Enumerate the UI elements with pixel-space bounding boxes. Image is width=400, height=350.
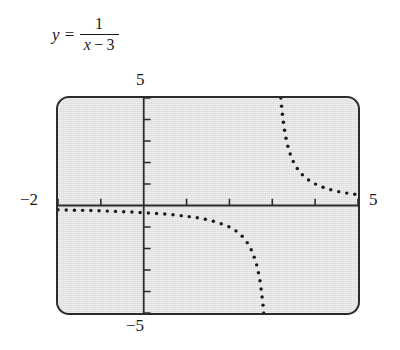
curve-point bbox=[281, 113, 284, 116]
axes-group bbox=[58, 98, 358, 313]
curve-point bbox=[258, 279, 261, 282]
curve-point bbox=[155, 212, 158, 215]
curve-point bbox=[321, 186, 324, 189]
curve-point bbox=[259, 287, 262, 290]
curve-point bbox=[261, 303, 264, 306]
denominator-operator: − bbox=[94, 36, 103, 53]
curve-point bbox=[286, 144, 289, 147]
curve-point bbox=[284, 137, 287, 140]
curve-point bbox=[81, 209, 84, 212]
graph-figure: y = 1 x−3 5 −2 5 −5 bbox=[0, 0, 400, 350]
curve-point bbox=[138, 211, 141, 214]
y-axis-min-label: −5 bbox=[126, 316, 144, 336]
x-axis-max-label: 5 bbox=[369, 190, 378, 210]
plot-canvas bbox=[58, 98, 358, 313]
curve-point bbox=[292, 160, 295, 163]
denominator-variable: x bbox=[84, 36, 91, 53]
function-equation: y = 1 x−3 bbox=[52, 16, 119, 53]
curve-point bbox=[301, 173, 304, 176]
curve-point bbox=[64, 208, 67, 211]
curve-point bbox=[345, 191, 348, 194]
curve-point bbox=[288, 152, 291, 155]
curve-point bbox=[196, 216, 199, 219]
curve-point bbox=[314, 182, 317, 185]
curve-point bbox=[122, 210, 125, 213]
curve-point bbox=[240, 234, 243, 237]
curve-point bbox=[296, 167, 299, 170]
y-axis-max-label: 5 bbox=[136, 70, 145, 90]
curve-point bbox=[279, 98, 282, 100]
curve-point bbox=[58, 208, 60, 211]
curve-point bbox=[227, 225, 230, 228]
curve-point bbox=[163, 212, 166, 215]
curve-point bbox=[353, 193, 356, 196]
curve-point bbox=[147, 211, 150, 214]
equation-fraction: 1 x−3 bbox=[80, 16, 119, 53]
curve-point bbox=[97, 209, 100, 212]
curve-point bbox=[114, 210, 117, 213]
curve-point bbox=[260, 295, 263, 298]
curve-point bbox=[329, 188, 332, 191]
curve-point bbox=[89, 209, 92, 212]
curve-point bbox=[188, 215, 191, 218]
curve-point bbox=[106, 209, 109, 212]
curve-point bbox=[337, 190, 340, 193]
curve-point bbox=[234, 229, 237, 232]
curve-point bbox=[280, 104, 283, 107]
equation-equals-sign: = bbox=[65, 25, 75, 45]
curve-point bbox=[204, 218, 207, 221]
curve-point bbox=[255, 263, 258, 266]
curve-point bbox=[179, 214, 182, 217]
equation-lhs: y bbox=[52, 25, 60, 45]
curve-point bbox=[130, 210, 133, 213]
curve-point bbox=[73, 208, 76, 211]
curve-point bbox=[212, 220, 215, 223]
curve-point bbox=[282, 121, 285, 124]
curve-point bbox=[262, 312, 265, 313]
graphing-window bbox=[56, 96, 360, 315]
curve-point bbox=[252, 255, 255, 258]
curve-point bbox=[171, 213, 174, 216]
curve-point bbox=[307, 178, 310, 181]
curve-point bbox=[257, 271, 260, 274]
fraction-numerator: 1 bbox=[89, 16, 109, 34]
curve-point bbox=[249, 248, 252, 251]
curve-point bbox=[219, 222, 222, 225]
denominator-constant: 3 bbox=[106, 36, 114, 53]
curve-point bbox=[283, 129, 286, 132]
fraction-denominator: x−3 bbox=[80, 35, 119, 53]
curve-point bbox=[245, 241, 248, 244]
x-axis-min-label: −2 bbox=[20, 190, 38, 210]
